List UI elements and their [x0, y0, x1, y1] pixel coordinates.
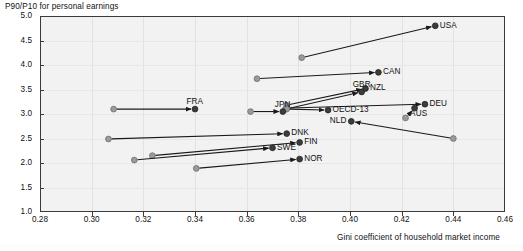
- start-point-marker: [254, 76, 260, 82]
- country-change-arrow: [305, 27, 432, 57]
- country-change-arrow: [355, 122, 450, 138]
- country-label: CAN: [383, 67, 401, 76]
- start-point-marker: [248, 109, 254, 115]
- start-point-marker: [131, 157, 137, 163]
- country-change-arrow: [290, 89, 362, 104]
- arrow-layer: [0, 0, 523, 251]
- country-label: USA: [440, 21, 457, 30]
- country-change-arrow: [111, 134, 282, 139]
- start-point-marker: [450, 136, 456, 142]
- country-label: OECD-13: [333, 105, 369, 114]
- x-axis-title: Gini coefficient of household market inc…: [337, 233, 500, 242]
- country-label: SWE: [277, 143, 296, 152]
- country-change-arrow: [137, 148, 268, 160]
- end-point-marker: [325, 107, 331, 113]
- country-label: FIN: [304, 137, 318, 146]
- end-point-marker: [376, 69, 382, 75]
- country-label: JPN: [275, 100, 291, 109]
- end-point-marker: [359, 89, 365, 95]
- country-label: NLD: [330, 116, 347, 125]
- country-label: NOR: [304, 154, 323, 163]
- end-point-marker: [280, 109, 286, 115]
- start-point-marker: [193, 165, 199, 171]
- start-point-marker: [149, 153, 155, 159]
- scatter-arrow-chart: P90/P10 for personal earnings 1.01.52.02…: [0, 0, 523, 251]
- end-point-marker: [297, 156, 303, 162]
- end-point-marker: [297, 140, 303, 146]
- country-label: GBR: [353, 80, 371, 89]
- country-label: NZL: [370, 83, 386, 92]
- start-point-marker: [299, 55, 305, 61]
- end-point-marker: [284, 131, 290, 137]
- country-change-arrow: [199, 159, 295, 168]
- country-change-arrow: [260, 73, 374, 79]
- end-point-marker: [422, 101, 428, 107]
- start-point-marker: [111, 106, 117, 112]
- country-change-arrow: [290, 109, 324, 110]
- end-point-marker: [192, 106, 198, 112]
- start-point-marker: [403, 115, 409, 121]
- country-label: FRA: [187, 97, 204, 106]
- end-point-marker: [432, 23, 438, 29]
- country-label: AUS: [410, 109, 427, 118]
- country-label: DNK: [291, 128, 309, 137]
- page-footer-edge: [0, 244, 523, 251]
- end-point-marker: [270, 145, 276, 151]
- start-point-marker: [106, 136, 112, 142]
- end-point-marker: [348, 118, 354, 124]
- country-label: DEU: [429, 99, 447, 108]
